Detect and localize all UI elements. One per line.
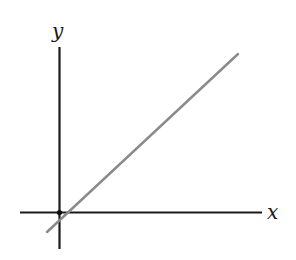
plotted-line	[47, 54, 238, 232]
origin-point	[57, 210, 62, 215]
y-axis-label: y	[51, 19, 64, 43]
coordinate-diagram: y x	[0, 0, 296, 260]
x-axis-label: x	[267, 200, 278, 224]
